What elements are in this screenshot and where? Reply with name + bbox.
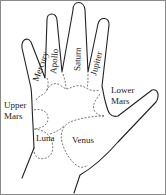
label-venus: Venus xyxy=(72,135,94,145)
label-mercury: Mercury xyxy=(30,50,50,83)
jupiter-mars-divider xyxy=(87,74,88,88)
lower-mars-boundary xyxy=(93,94,104,116)
wrist-line-left xyxy=(22,148,34,178)
label-lower-mars-line1: Lower xyxy=(111,85,135,95)
label-luna: Luna xyxy=(36,133,55,143)
label-saturn: Saturn xyxy=(72,47,83,71)
label-upper-mars-line1: Upper xyxy=(4,100,27,110)
finger-base-boundary xyxy=(36,84,100,100)
label-lower-mars-line2: Mars xyxy=(111,96,130,106)
label-upper-mars-line2: Mars xyxy=(4,111,23,121)
apollo-saturn-divider xyxy=(47,78,48,90)
palm-diagram: Mercury Apollo Saturn Jupiter Lower Mars… xyxy=(0,0,166,195)
label-jupiter: Jupiter xyxy=(88,50,104,76)
upper-mars-boundary xyxy=(34,109,48,129)
saturn-jupiter-divider xyxy=(63,74,66,89)
hand-outline xyxy=(22,3,158,194)
label-apollo: Apollo xyxy=(48,48,60,74)
